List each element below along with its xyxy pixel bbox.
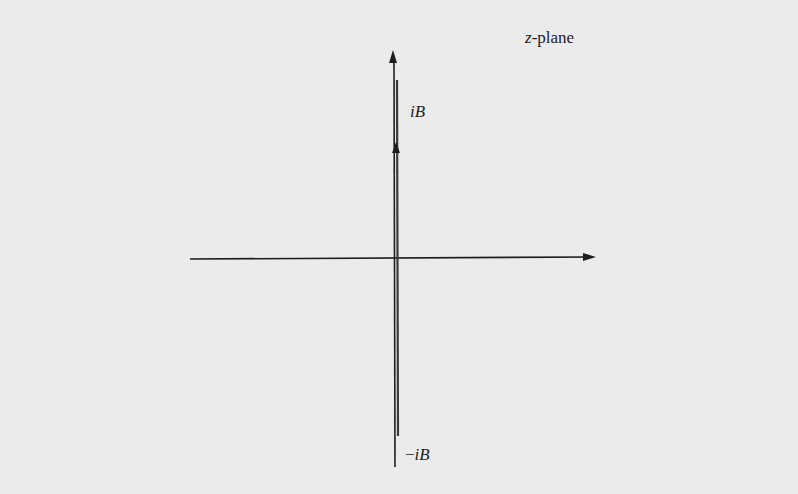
lower-point-var: iB	[415, 445, 430, 464]
plane-title: z-plane	[525, 29, 574, 46]
real-axis	[190, 253, 596, 261]
up-arrowhead-icon	[389, 50, 397, 63]
plane-variable: z	[525, 28, 532, 47]
z-plane-diagram: z-plane iB −iB	[0, 0, 798, 494]
lower-point-label: −iB	[405, 446, 430, 463]
minus-sign: −	[405, 445, 415, 464]
upper-point-var: iB	[410, 102, 425, 121]
cut-direction-arrow-icon	[392, 142, 400, 153]
axes-figure	[0, 0, 798, 494]
right-arrowhead-icon	[583, 253, 596, 261]
upper-point-label: iB	[410, 103, 425, 120]
plane-suffix: -plane	[532, 28, 574, 47]
